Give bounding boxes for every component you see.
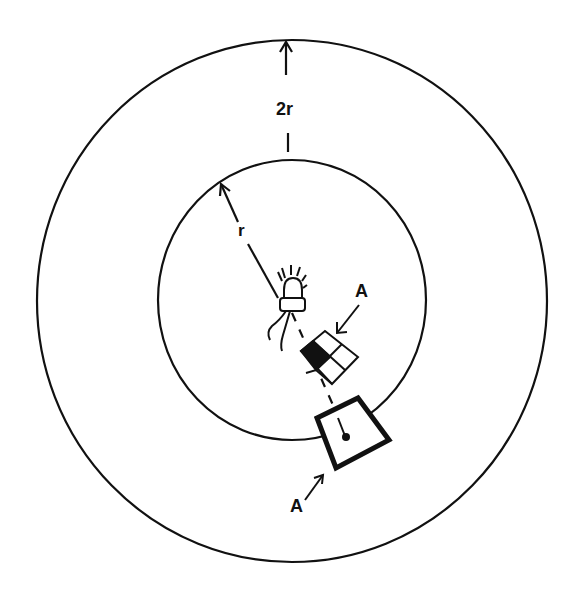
surface-arrow-top (337, 305, 359, 333)
surface-label-bottom: A (290, 496, 303, 516)
inner-radius-arrow (220, 184, 278, 298)
outer-distance-arrow (280, 42, 292, 152)
light-bulb-icon (268, 265, 307, 351)
surface-arrow-bottom (305, 475, 323, 500)
outer-distance-label: 2r (276, 99, 293, 119)
small-surface-patch (301, 331, 358, 384)
inner-radius-label: r (238, 221, 245, 240)
inverse-square-diagram: 2r r A (0, 0, 570, 592)
surface-label-top: A (355, 281, 368, 301)
